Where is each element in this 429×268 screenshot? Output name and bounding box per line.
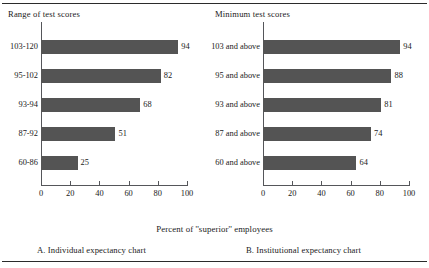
bar (41, 40, 178, 54)
x-tick-label-a-40: 40 (95, 189, 103, 198)
bar-value-label: 51 (118, 128, 126, 140)
x-tick-b-0 (263, 181, 264, 186)
bar-row: 103-12094 (41, 40, 187, 54)
x-tick-label-a-20: 20 (66, 189, 74, 198)
bar-row: 87 and above74 (263, 127, 409, 141)
bar (41, 69, 161, 83)
x-tick-label-b-40: 40 (317, 189, 325, 198)
x-tick-label-b-0: 0 (261, 189, 265, 198)
category-label: 95 and above (196, 69, 263, 83)
bar-value-label: 64 (359, 157, 367, 169)
bar-row: 93 and above81 (263, 98, 409, 112)
bar-row: 95 and above88 (263, 69, 409, 83)
bar-value-label: 94 (403, 41, 411, 53)
category-label: 93 and above (196, 98, 263, 112)
bar (263, 127, 371, 141)
bar (263, 69, 391, 83)
x-tick-b-20 (292, 181, 293, 186)
category-label: 87 and above (196, 127, 263, 141)
x-tick-a-0 (41, 181, 42, 186)
bar (41, 156, 78, 170)
x-tick-label-a-60: 60 (124, 189, 132, 198)
category-label: 87-92 (0, 127, 41, 141)
category-label: 95-102 (0, 69, 41, 83)
x-tick-b-100 (409, 181, 410, 186)
bar-value-label: 68 (143, 99, 151, 111)
x-tick-label-a-100: 100 (181, 189, 194, 198)
x-axis-line-a (41, 185, 187, 186)
plot-area-b: 020406080100 103 and above9495 and above… (263, 22, 409, 190)
x-tick-a-60 (129, 181, 130, 186)
x-tick-label-b-60: 60 (346, 189, 354, 198)
column-header-a: Range of test scores (8, 9, 80, 19)
x-axis-caption: Percent of ''superior'' employees (0, 224, 429, 234)
bar (41, 98, 140, 112)
bar (263, 40, 400, 54)
bar (41, 127, 115, 141)
category-label: 103-120 (0, 40, 41, 54)
bar-value-label: 88 (394, 70, 402, 82)
x-tick-label-a-0: 0 (39, 189, 43, 198)
bar (263, 98, 381, 112)
panel-caption-a: A. Individual expectancy chart (37, 245, 146, 255)
x-axis-line-b (263, 185, 409, 186)
x-tick-label-b-80: 80 (376, 189, 384, 198)
category-label: 60-86 (0, 156, 41, 170)
bar-value-label: 81 (384, 99, 392, 111)
x-tick-b-40 (321, 181, 322, 186)
x-tick-label-b-20: 20 (288, 189, 296, 198)
bar-row: 93-9468 (41, 98, 187, 112)
plot-area-a: 020406080100 103-1209495-1028293-946887-… (41, 22, 187, 190)
bar-row: 95-10282 (41, 69, 187, 83)
bar-row: 60-8625 (41, 156, 187, 170)
x-tick-a-20 (70, 181, 71, 186)
x-tick-b-60 (351, 181, 352, 186)
category-label: 60 and above (196, 156, 263, 170)
bar-row: 87-9251 (41, 127, 187, 141)
x-tick-a-100 (187, 181, 188, 186)
x-tick-a-80 (158, 181, 159, 186)
bar-row: 60 and above64 (263, 156, 409, 170)
bar-value-label: 82 (164, 70, 172, 82)
bar-row: 103 and above94 (263, 40, 409, 54)
bar (263, 156, 356, 170)
category-label: 103 and above (196, 40, 263, 54)
x-tick-a-40 (99, 181, 100, 186)
x-tick-label-a-80: 80 (154, 189, 162, 198)
x-tick-b-80 (380, 181, 381, 186)
category-label: 93-94 (0, 98, 41, 112)
panel-caption-b: B. Institutional expectancy chart (246, 245, 361, 255)
x-tick-label-b-100: 100 (403, 189, 416, 198)
column-header-b: Minimum test scores (215, 9, 290, 19)
expectancy-charts-figure: Range of test scores 020406080100 103-12… (0, 0, 429, 268)
bar-value-label: 94 (181, 41, 189, 53)
bar-value-label: 74 (374, 128, 382, 140)
bar-value-label: 25 (81, 157, 89, 169)
